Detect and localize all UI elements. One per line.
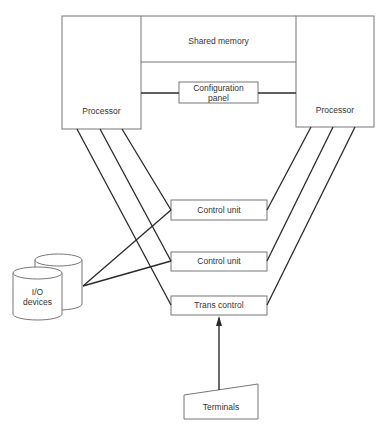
control-unit-1-label: Control unit xyxy=(171,205,267,215)
diagram-canvas xyxy=(0,0,386,434)
config-panel-line2: panel xyxy=(179,93,258,103)
io-devices-line1: I/O xyxy=(13,287,62,297)
io-devices-line2: devices xyxy=(13,297,62,307)
trans-control-label: Trans control xyxy=(171,300,267,310)
processor-left-label: Processor xyxy=(62,106,141,116)
control-unit-2-label: Control unit xyxy=(171,256,267,266)
right-processor-links xyxy=(267,127,355,305)
processor-right-label: Processor xyxy=(296,105,374,115)
terminals-label: Terminals xyxy=(184,402,258,412)
config-panel-label: Configuration panel xyxy=(179,83,258,103)
config-panel-line1: Configuration xyxy=(179,83,258,93)
arrow-up-icon xyxy=(216,316,222,326)
shared-memory-label: Shared memory xyxy=(141,36,296,46)
io-devices-label: I/O devices xyxy=(13,287,62,307)
